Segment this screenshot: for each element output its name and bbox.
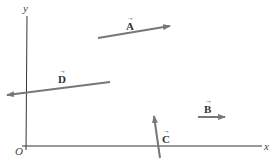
y-axis (26, 16, 27, 150)
vector-d-label: → D (58, 74, 66, 85)
vector-c-label: → C (162, 134, 170, 145)
y-axis-label: y (23, 3, 28, 14)
vector-arrow-icon: → (163, 128, 170, 135)
vector-diagram (0, 0, 274, 159)
vector-c (154, 116, 160, 158)
x-axis-label: x (264, 141, 269, 152)
vector-b-label: → B (204, 104, 211, 115)
vector-arrow-icon: → (59, 68, 66, 75)
vector-arrow-icon: → (127, 15, 134, 22)
origin-label: O (15, 146, 23, 157)
vector-arrow-icon: → (205, 98, 212, 105)
vector-a-label: → A (126, 21, 134, 32)
vector-a (98, 26, 170, 38)
